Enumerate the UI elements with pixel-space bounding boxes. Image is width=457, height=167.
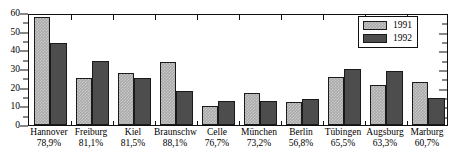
bar [50,43,67,125]
bar [202,106,219,125]
legend-item-1991[interactable]: 1991 [363,20,412,31]
x-axis-category: Tübingen65,5% [322,127,364,149]
bar [328,77,345,125]
x-axis-category-percentage: 78,9% [28,138,70,149]
x-axis-category-percentage: 73,2% [238,138,280,149]
x-axis-category-name: Tübingen [322,127,364,138]
bar [260,101,277,125]
x-axis-category-name: Hannover [28,127,70,138]
y-axis-tick-major [20,126,28,127]
y-axis-tick-major [20,107,28,108]
bar [344,69,361,125]
legend: 1991 1992 [358,16,418,48]
x-axis-category-percentage: 88,1% [154,138,196,149]
x-axis-labels: Hannover78,9%Freiburg81,1%Kiel81,5%Braun… [28,127,448,167]
x-axis-category: Celle76,7% [196,127,238,149]
bar [176,91,193,125]
x-axis-category: Augsburg63,3% [364,127,406,149]
y-axis-tick-major [20,70,28,71]
x-axis-category-percentage: 63,3% [364,138,406,149]
legend-item-1992[interactable]: 1992 [363,33,412,44]
legend-label-1992: 1992 [393,34,412,44]
bar [370,85,387,125]
bar [160,62,177,125]
x-axis-category-percentage: 81,5% [112,138,154,149]
x-axis-category-name: Marburg [406,127,448,138]
y-axis-tick-label: 60 [11,9,21,19]
x-axis-category-name: Celle [196,127,238,138]
legend-swatch-1992-icon [363,34,387,43]
bar [286,102,303,125]
bar [34,17,51,125]
y-axis: 0102030405060 [0,14,26,126]
y-axis-tick-label: 20 [11,84,21,94]
y-axis-tick-label: 30 [11,65,21,75]
bar [76,78,93,125]
x-axis-category: Berlin56,8% [280,127,322,149]
bar [118,73,135,125]
x-axis-category: Freiburg81,1% [70,127,112,149]
x-axis-category-percentage: 76,7% [196,138,238,149]
x-axis-category-name: Berlin [280,127,322,138]
x-axis-category-name: Kiel [112,127,154,138]
x-axis-category-percentage: 81,1% [70,138,112,149]
bar [92,61,109,125]
y-axis-tick-major [20,88,28,89]
x-axis-category: Hannover78,9% [28,127,70,149]
x-axis-category: Marburg60,7% [406,127,448,149]
bar [412,82,429,125]
x-axis-category-name: Augsburg [364,127,406,138]
bar [244,93,261,125]
x-axis-category-percentage: 56,8% [280,138,322,149]
bar-chart: 0102030405060 Hannover78,9%Freiburg81,1%… [0,0,457,167]
x-axis-category-percentage: 65,5% [322,138,364,149]
bar [386,71,403,125]
y-axis-tick-label: 50 [11,28,21,38]
bar [428,98,445,125]
y-axis-tick-label: 40 [11,47,21,57]
y-axis-tick-major [20,51,28,52]
bar [134,78,151,125]
y-axis-tick-major [20,32,28,33]
y-axis-tick-label: 10 [11,103,21,113]
legend-label-1991: 1991 [393,21,412,31]
x-axis-category-percentage: 60,7% [406,138,448,149]
x-axis-category-name: Freiburg [70,127,112,138]
y-axis-tick-major [20,14,28,15]
x-axis-category: Kiel81,5% [112,127,154,149]
x-axis-category-name: München [238,127,280,138]
legend-swatch-1991-icon [363,21,387,30]
bar [302,99,319,125]
bar [218,101,235,125]
x-axis-category-name: Braunschw [154,127,196,138]
x-axis-category: Braunschw88,1% [154,127,196,149]
x-axis-category: München73,2% [238,127,280,149]
